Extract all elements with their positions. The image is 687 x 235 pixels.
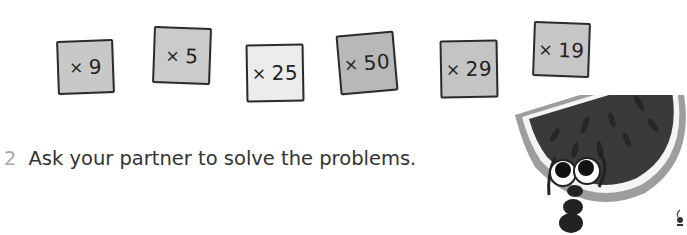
multiply-sign: × [165, 45, 180, 66]
page-corner-icon [675, 209, 685, 231]
multiplier-card-19: × 19 [532, 21, 591, 78]
instruction-number: 2 [4, 147, 16, 170]
multiplier-card-9: × 9 [56, 39, 115, 95]
card-value: 50 [363, 49, 391, 75]
card-value: 25 [271, 61, 298, 85]
watermelon-ant-illustration [515, 95, 687, 235]
multiply-sign: × [343, 54, 359, 75]
multiply-sign: × [538, 39, 553, 60]
watermelon-ant-icon [515, 95, 687, 235]
multiplier-card-29: × 29 [439, 39, 498, 98]
instruction-line: 2Ask your partner to solve the problems. [4, 147, 416, 170]
multiply-sign: × [446, 59, 461, 79]
multiplier-card-50: × 50 [335, 31, 398, 96]
card-value: 29 [465, 57, 492, 81]
multiplier-card-5: × 5 [152, 26, 212, 85]
card-value: 19 [558, 37, 585, 62]
card-value: 5 [185, 44, 199, 68]
card-value: 9 [88, 54, 102, 78]
instruction-text: Ask your partner to solve the problems. [28, 147, 416, 170]
multiply-sign: × [69, 57, 84, 78]
multiply-sign: × [252, 63, 267, 83]
multiplier-card-25: × 25 [245, 43, 304, 102]
